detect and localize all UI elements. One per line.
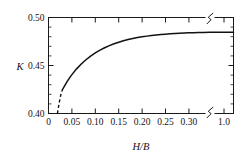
x-tick-label: 0.15	[110, 117, 127, 127]
y-axis-tick-labels: 0.400.450.50	[28, 13, 45, 119]
chart-plot: 00.050.100.150.200.250.301.0 0.400.450.5…	[0, 0, 247, 159]
figure-container: 00.050.100.150.200.250.301.0 0.400.450.5…	[0, 0, 247, 159]
data-curve-extrapolated	[57, 90, 62, 114]
x-axis-break-bottom	[206, 107, 215, 118]
data-curve-main	[63, 32, 234, 89]
x-tick-label: 0.05	[64, 117, 81, 127]
y-tick-label: 0.50	[28, 13, 45, 23]
x-tick-label: 0.20	[134, 117, 151, 127]
y-axis-minor-ticks	[49, 27, 234, 104]
x-tick-label: 0	[46, 117, 51, 127]
x-axis-break-top	[206, 13, 215, 24]
x-tick-label: 0.30	[181, 117, 198, 127]
y-axis-title: K	[15, 61, 24, 72]
x-axis-title: H/B	[132, 141, 151, 152]
x-axis-tick-labels: 00.050.100.150.200.250.301.0	[46, 117, 230, 127]
x-tick-label: 0.25	[157, 117, 174, 127]
x-tick-label: 1.0	[218, 117, 230, 127]
y-tick-label: 0.40	[28, 109, 45, 119]
x-tick-label: 0.10	[87, 117, 104, 127]
y-tick-label: 0.45	[28, 61, 45, 71]
